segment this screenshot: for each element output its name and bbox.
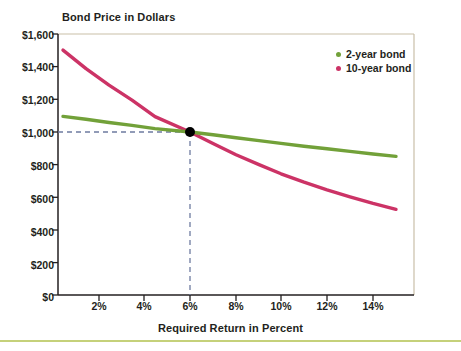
x-tick-label: 10%	[270, 301, 291, 312]
y-axis-ticks	[52, 34, 58, 295]
legend-dot-icon	[336, 66, 341, 71]
legend-item-2-year-bond: 2-year bond	[336, 47, 411, 61]
x-tick-label: 12%	[316, 301, 337, 312]
x-axis-title: Required Return in Percent	[0, 322, 461, 334]
bond-price-chart-figure: Bond Price in Dollars $1,600 $1,400 $1,2…	[0, 0, 461, 351]
intersection-point-marker	[185, 127, 195, 137]
legend-item-10-year-bond: 10-year bond	[336, 61, 411, 75]
legend-dot-icon	[336, 52, 341, 57]
chart-legend: 2-year bond 10-year bond	[336, 47, 411, 75]
legend-label: 10-year bond	[346, 61, 411, 75]
x-tick-label: 14%	[362, 301, 383, 312]
x-tick-label: 8%	[228, 301, 243, 312]
x-tick-label: 4%	[136, 301, 151, 312]
x-tick-label: 6%	[182, 301, 197, 312]
legend-label: 2-year bond	[346, 47, 406, 61]
bottom-accent-rule	[0, 340, 461, 342]
x-tick-label: 2%	[91, 301, 106, 312]
